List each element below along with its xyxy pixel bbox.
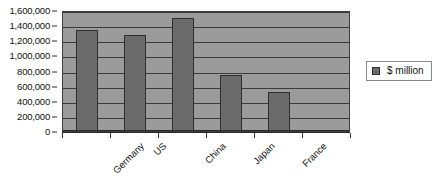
- y-axis-tick-mark: [52, 101, 57, 102]
- y-axis-tick-label: 800,000: [17, 67, 50, 77]
- y-axis-tick-label: 1,000,000: [10, 52, 50, 62]
- y-axis-tick-mark: [52, 71, 57, 72]
- y-axis-tick-label: 1,400,000: [10, 21, 50, 31]
- x-axis-category-label: Japan: [252, 141, 277, 166]
- x-axis-tick-mark: [62, 133, 63, 138]
- x-axis-line: [62, 132, 350, 133]
- x-axis-tick-mark: [350, 133, 351, 138]
- y-axis-tick-mark: [52, 116, 57, 117]
- x-axis-category-label: US: [152, 141, 168, 157]
- gridline: [63, 12, 349, 13]
- legend-label: $ million: [387, 66, 424, 76]
- y-axis-tick-label: 200,000: [17, 112, 50, 122]
- bar[interactable]: [76, 30, 98, 131]
- x-axis-category-label: China: [203, 141, 228, 166]
- y-axis-tick-mark: [52, 86, 57, 87]
- gridline: [63, 103, 349, 104]
- x-axis-tick-mark: [158, 133, 159, 138]
- gridline: [63, 57, 349, 58]
- y-axis-tick-label: 1,600,000: [10, 6, 50, 16]
- y-axis-tick-label: 400,000: [17, 97, 50, 107]
- y-axis-tick-label: 1,200,000: [10, 37, 50, 47]
- x-axis-category-label: Germany: [111, 141, 146, 176]
- bar-chart: 1,600,0001,400,0001,200,0001,000,000800,…: [0, 0, 445, 191]
- x-axis-tick-mark: [254, 133, 255, 138]
- gridline: [63, 27, 349, 28]
- chart-legend[interactable]: $ million: [366, 61, 432, 81]
- y-axis-tick-mark: [52, 56, 57, 57]
- y-axis-tick-mark: [52, 132, 57, 133]
- gridline: [63, 118, 349, 119]
- y-axis-tick-label: 600,000: [17, 82, 50, 92]
- axis-baseline: [63, 130, 349, 131]
- y-axis: 1,600,0001,400,0001,200,0001,000,000800,…: [0, 7, 57, 136]
- gridline: [63, 88, 349, 89]
- legend-swatch-dollar-million: [372, 67, 380, 75]
- gridline: [63, 73, 349, 74]
- plot-area: [62, 11, 350, 132]
- x-axis-tick-mark: [206, 133, 207, 138]
- bar[interactable]: [124, 35, 146, 131]
- y-axis-tick-label: 0: [45, 127, 50, 137]
- x-axis-category-label: France: [301, 141, 329, 169]
- gridline: [63, 42, 349, 43]
- bar[interactable]: [220, 75, 242, 131]
- bar[interactable]: [268, 92, 290, 131]
- x-axis-tick-mark: [302, 133, 303, 138]
- y-axis-tick-mark: [52, 11, 57, 12]
- y-axis-tick-mark: [52, 41, 57, 42]
- bar[interactable]: [172, 18, 194, 131]
- y-axis-tick-mark: [52, 26, 57, 27]
- x-axis-tick-mark: [110, 133, 111, 138]
